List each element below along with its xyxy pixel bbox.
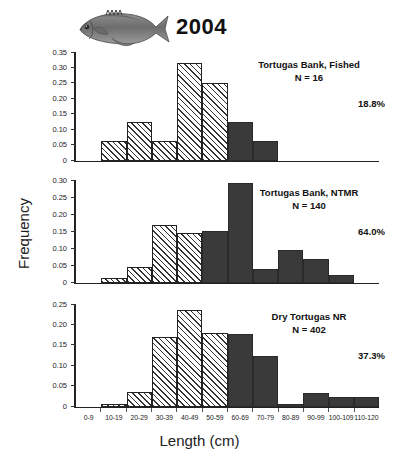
y-tick: 0.30 — [71, 180, 75, 181]
y-tick: 0 — [71, 160, 75, 161]
y-tick: 0.30 — [71, 67, 75, 68]
bar-20-29 — [127, 122, 152, 161]
x-tick-label: 110-120 — [354, 414, 379, 426]
panel-annotation: Tortugas Bank, NTMR N = 140 64.0% — [225, 186, 393, 237]
y-tick-label: 0.05 — [52, 381, 67, 390]
y-tick: 0 — [71, 406, 75, 407]
panel-tortugas-bank-fished: 00.050.100.150.200.250.300.35 Tortugas B… — [0, 48, 399, 170]
x-tick — [253, 408, 278, 412]
bar-10-19 — [101, 404, 126, 407]
bar-slot — [177, 52, 202, 161]
grouper-fish-icon — [76, 8, 171, 50]
x-tick — [152, 408, 177, 412]
bar-50-59 — [202, 83, 227, 161]
bar-50-59 — [202, 333, 227, 407]
x-tick — [127, 408, 152, 412]
panel-dry-tortugas-nr: 00.050.100.150.200.25 Dry Tortugas NR N … — [0, 300, 399, 412]
bar-slot — [127, 304, 152, 407]
x-tick-label: 100-109 — [329, 414, 354, 426]
y-tick-label: 0.10 — [52, 243, 67, 252]
y-tick-label: 0.20 — [52, 93, 67, 102]
bar-slot — [152, 52, 177, 161]
y-tick-label: 0.05 — [52, 140, 67, 149]
y-tick-label: 0.15 — [52, 340, 67, 349]
bar-slot — [101, 52, 126, 161]
bar-10-19 — [101, 141, 126, 161]
x-tick — [101, 408, 126, 412]
bar-100-109 — [329, 397, 354, 406]
x-tick-label: 40-49 — [177, 414, 202, 426]
x-tick-label: 10-19 — [101, 414, 126, 426]
x-tick-label: 60-69 — [228, 414, 253, 426]
x-tick — [177, 408, 202, 412]
page-title: 2004 — [176, 14, 227, 40]
y-tick-label: 0.25 — [52, 192, 67, 201]
y-tick-label: 0.15 — [52, 109, 67, 118]
panel-annotation: Dry Tortugas NR N = 402 37.3% — [225, 310, 393, 361]
y-tick: 0.10 — [71, 129, 75, 130]
percent-label: 18.8% — [225, 98, 393, 109]
bar-10-19 — [101, 278, 126, 283]
bar-70-79 — [253, 269, 278, 282]
bar-slot — [76, 180, 101, 283]
bar-80-89 — [278, 250, 303, 282]
y-tick-label: 0 — [63, 277, 67, 286]
bar-40-49 — [177, 310, 202, 406]
y-tick: 0.05 — [71, 265, 75, 266]
bar-70-79 — [253, 141, 278, 161]
x-tick-label: 70-79 — [253, 414, 278, 426]
y-tick-label: 0.30 — [52, 62, 67, 71]
y-tick-label: 0.10 — [52, 124, 67, 133]
y-tick-label: 0.10 — [52, 360, 67, 369]
y-tick: 0.05 — [71, 385, 75, 386]
y-tick-label: 0.20 — [52, 319, 67, 328]
bar-40-49 — [177, 63, 202, 160]
x-axis-ticks — [76, 408, 379, 412]
y-tick: 0.20 — [71, 214, 75, 215]
bar-20-29 — [127, 392, 152, 406]
bar-50-59 — [202, 231, 227, 282]
bar-slot — [101, 304, 126, 407]
x-tick-label: 50-59 — [202, 414, 227, 426]
x-tick-label: 30-39 — [152, 414, 177, 426]
panel-annotation: Tortugas Bank, Fished N = 16 18.8% — [225, 58, 393, 109]
y-tick-label: 0.25 — [52, 299, 67, 308]
x-tick-label: 0-9 — [76, 414, 101, 426]
bar-slot — [202, 304, 227, 407]
y-tick: 0.15 — [71, 231, 75, 232]
y-tick-label: 0.20 — [52, 209, 67, 218]
percent-label: 37.3% — [225, 350, 393, 361]
bar-90-99 — [303, 259, 328, 283]
y-tick: 0.20 — [71, 98, 75, 99]
bar-40-49 — [177, 233, 202, 283]
y-tick: 0.15 — [71, 344, 75, 345]
bar-slot — [152, 180, 177, 283]
y-tick-label: 0.15 — [52, 226, 67, 235]
y-tick-label: 0 — [63, 155, 67, 164]
bar-30-39 — [152, 225, 177, 282]
y-tick: 0.20 — [71, 324, 75, 325]
y-tick: 0 — [71, 282, 75, 283]
bar-70-79 — [253, 356, 278, 406]
y-tick: 0.05 — [71, 144, 75, 145]
panel-tortugas-bank-ntmr: 00.050.100.150.200.250.30 Tortugas Bank,… — [0, 176, 399, 288]
bar-100-109 — [329, 275, 354, 283]
y-tick: 0.15 — [71, 113, 75, 114]
bar-slot — [202, 52, 227, 161]
bar-slot — [76, 304, 101, 407]
bar-slot — [127, 180, 152, 283]
sample-size-label: N = 16 — [225, 71, 393, 84]
x-axis-title: Length (cm) — [0, 432, 399, 449]
x-axis-line — [74, 161, 379, 163]
bar-slot — [152, 304, 177, 407]
y-tick: 0.25 — [71, 304, 75, 305]
bar-30-39 — [152, 141, 177, 161]
site-label: Dry Tortugas NR — [225, 310, 393, 323]
y-tick: 0.25 — [71, 197, 75, 198]
figure-header: 2004 — [0, 2, 399, 50]
y-tick-label: 0 — [63, 401, 67, 410]
bar-slot — [101, 180, 126, 283]
y-tick: 0.25 — [71, 82, 75, 83]
sample-size-label: N = 402 — [225, 323, 393, 336]
bar-110-120 — [354, 397, 379, 406]
